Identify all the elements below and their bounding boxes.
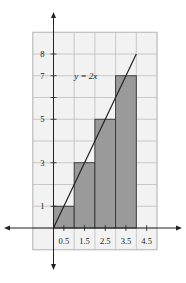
x-tick-label: 0.5	[59, 236, 70, 246]
riemann-sum-chart: 0.51.52.53.54.513578 y = 2x	[0, 0, 186, 283]
x-tick-label: 4.5	[141, 236, 152, 246]
x-axis-arrow-left	[4, 226, 10, 231]
x-tick-label: 3.5	[121, 236, 132, 246]
y-tick-label: 5	[40, 114, 44, 124]
x-axis-arrow-right	[176, 226, 182, 231]
x-tick-label: 1.5	[79, 236, 90, 246]
bar	[116, 76, 137, 228]
y-tick-label: 8	[40, 49, 44, 59]
bar	[74, 163, 95, 228]
y-axis-arrow-down	[51, 264, 56, 270]
y-tick-label: 3	[40, 158, 44, 168]
y-axis-arrow-up	[51, 12, 56, 18]
line-label: y = 2x	[73, 71, 97, 81]
y-tick-label: 1	[40, 201, 44, 211]
bar	[54, 206, 75, 228]
y-tick-label: 7	[40, 71, 44, 81]
x-tick-label: 2.5	[100, 236, 111, 246]
